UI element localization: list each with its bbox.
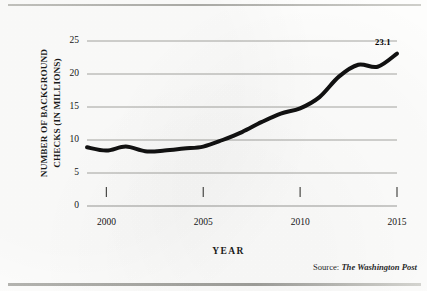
y-tick-label-15: 15 <box>53 101 79 111</box>
x-tick-label-2015: 2015 <box>374 217 420 227</box>
source-credit: Source: The Washington Post <box>313 262 417 272</box>
y-tick-label-20: 20 <box>53 68 79 78</box>
gridlines <box>87 41 397 206</box>
x-tick-label-2000: 2000 <box>83 217 129 227</box>
x-tick-label-2010: 2010 <box>277 217 323 227</box>
data-label-2015: 23.1 <box>375 37 391 47</box>
x-tick-marks <box>106 187 397 197</box>
chart-figure: NUMBER OF BACKGROUND CHECKS (IN MILLIONS… <box>0 0 427 291</box>
series-line-background-checks <box>87 54 397 152</box>
y-tick-label-0: 0 <box>53 200 79 210</box>
x-tick-label-2005: 2005 <box>180 217 226 227</box>
y-tick-label-25: 25 <box>53 35 79 45</box>
y-tick-label-5: 5 <box>53 167 79 177</box>
x-axis-title: YEAR <box>0 246 427 256</box>
y-tick-label-10: 10 <box>53 134 79 144</box>
source-publication: The Washington Post <box>341 262 417 272</box>
source-prefix: Source: <box>313 262 339 272</box>
